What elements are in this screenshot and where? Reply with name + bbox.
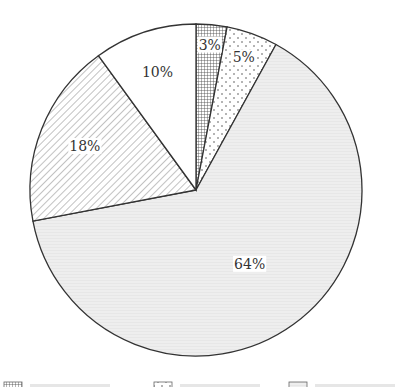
legend-swatch — [289, 382, 307, 387]
slice-label: 10% — [142, 64, 173, 80]
pie-slices — [30, 24, 362, 356]
slice-label: 64% — [234, 256, 265, 272]
legend-swatch — [4, 382, 22, 387]
pie-chart: 3%5%64%18%10% — [0, 0, 395, 387]
legend-swatch — [154, 382, 172, 387]
slice-label: 18% — [69, 138, 100, 154]
legend — [4, 382, 395, 387]
slice-label: 5% — [233, 49, 255, 65]
slice-label: 3% — [199, 37, 221, 53]
